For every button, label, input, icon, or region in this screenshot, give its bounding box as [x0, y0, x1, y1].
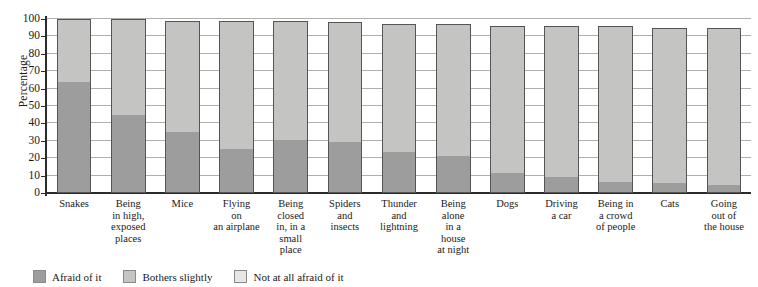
stacked-bar[interactable] — [436, 24, 471, 193]
x-axis-label-line: Being — [102, 198, 154, 210]
x-axis-label: Drivinga car — [534, 198, 588, 256]
y-tick-mark — [41, 54, 46, 55]
x-axis-label: Spidersandinsects — [318, 198, 372, 256]
bar-segment-afraid-of-it — [437, 156, 470, 192]
stacked-bar[interactable] — [111, 19, 146, 193]
legend-item[interactable]: Not at all afraid of it — [234, 270, 343, 283]
bar-slot — [480, 19, 534, 193]
x-axis-label-line: exposed — [102, 221, 154, 233]
x-axis-label-line: small — [265, 233, 317, 245]
bar-segment-afraid-of-it — [653, 183, 686, 192]
x-axis-label-line: the house — [698, 221, 750, 233]
bar-segment-afraid-of-it — [383, 152, 416, 192]
bar-slot — [534, 19, 588, 193]
x-axis-category-labels: SnakesBeingin high,exposedplacesMiceFlyi… — [47, 198, 751, 256]
x-axis-label-line: Being in — [590, 198, 642, 210]
x-axis-label-line: in, in a — [265, 221, 317, 233]
x-axis-label: Goingout ofthe house — [697, 198, 751, 256]
y-tick-label: 70 — [29, 65, 41, 77]
x-axis-label-line: Flying — [210, 198, 262, 210]
bar-group — [47, 19, 751, 193]
y-tick-label: 80 — [29, 48, 41, 60]
y-tick-mark — [41, 89, 46, 90]
x-axis-label-line: at night — [427, 244, 479, 256]
x-axis-label: Being ina crowdof people — [589, 198, 643, 256]
x-axis-label-line: and — [373, 210, 425, 222]
stacked-bar[interactable] — [707, 28, 742, 193]
x-axis-label-line: places — [102, 233, 154, 245]
x-axis-label: Dogs — [480, 198, 534, 256]
y-tick-label: 40 — [29, 118, 41, 130]
legend-label: Bothers slightly — [142, 271, 212, 283]
x-axis-label-line: in a — [427, 221, 479, 233]
legend-label: Not at all afraid of it — [253, 271, 343, 283]
bar-segment-afraid-of-it — [708, 185, 741, 192]
x-axis-label-line: insects — [319, 221, 371, 233]
y-tick-label: 90 — [29, 31, 41, 43]
bar-slot — [209, 19, 263, 193]
stacked-bar[interactable] — [57, 19, 92, 193]
bar-slot — [264, 19, 318, 193]
x-axis-label: Beingalonein ahouseat night — [426, 198, 480, 256]
y-tick-label: 100 — [23, 13, 40, 25]
x-axis-label: Snakes — [47, 198, 101, 256]
bar-slot — [372, 19, 426, 193]
bar-segment-bothers-slightly — [653, 29, 686, 192]
x-axis-label-line: on — [210, 210, 262, 222]
y-tick-mark — [41, 106, 46, 107]
bar-segment-afraid-of-it — [220, 149, 253, 192]
x-axis-label-line: Spiders — [319, 198, 371, 210]
x-axis-label-line: lightning — [373, 221, 425, 233]
stacked-bar[interactable] — [652, 28, 687, 193]
x-axis-label-line: Thunder — [373, 198, 425, 210]
stacked-bar[interactable] — [328, 22, 363, 193]
x-axis-label: Beingclosedin, in asmallplace — [264, 198, 318, 256]
chart-legend: Afraid of itBothers slightlyNot at all a… — [33, 270, 344, 283]
bar-segment-bothers-slightly — [491, 27, 524, 192]
x-axis-label-line: out of — [698, 210, 750, 222]
bar-slot — [589, 19, 643, 193]
bar-slot — [426, 19, 480, 193]
y-tick-label: 30 — [29, 135, 41, 147]
x-axis-label-line: Mice — [156, 198, 208, 210]
bar-segment-bothers-slightly — [599, 27, 632, 192]
x-axis-label-line: Being — [265, 198, 317, 210]
x-axis-label-line: Driving — [535, 198, 587, 210]
stacked-bar[interactable] — [598, 26, 633, 193]
bar-segment-afraid-of-it — [491, 173, 524, 192]
x-axis-label-line: Snakes — [48, 198, 100, 210]
x-axis-label-line: Dogs — [481, 198, 533, 210]
x-axis-label: Mice — [155, 198, 209, 256]
y-tick-mark — [41, 158, 46, 159]
bar-slot — [318, 19, 372, 193]
stacked-bar[interactable] — [382, 24, 417, 193]
x-axis-label-line: in high, — [102, 210, 154, 222]
x-axis-label-line: closed — [265, 210, 317, 222]
legend-swatch-icon — [123, 270, 136, 283]
stacked-bar[interactable] — [273, 21, 308, 193]
bar-segment-bothers-slightly — [545, 27, 578, 192]
bar-segment-afraid-of-it — [545, 177, 578, 192]
x-axis-label-line: a car — [535, 210, 587, 222]
y-tick-label: 50 — [29, 100, 41, 112]
bar-segment-afraid-of-it — [58, 82, 91, 192]
bar-slot — [697, 19, 751, 193]
x-axis-label-line: alone — [427, 210, 479, 222]
x-axis-label: Thunderandlightning — [372, 198, 426, 256]
legend-item[interactable]: Afraid of it — [33, 270, 101, 283]
bar-segment-afraid-of-it — [329, 142, 362, 192]
stacked-bar[interactable] — [165, 21, 200, 193]
bar-segment-afraid-of-it — [112, 115, 145, 192]
x-axis-label: Cats — [643, 198, 697, 256]
x-axis-label-line: an airplane — [210, 221, 262, 233]
stacked-bar[interactable] — [544, 26, 579, 193]
stacked-bar[interactable] — [219, 21, 254, 193]
x-axis-label-line: house — [427, 233, 479, 245]
x-axis-label: Flyingonan airplane — [209, 198, 263, 256]
stacked-bar[interactable] — [490, 26, 525, 193]
y-tick-mark — [41, 193, 46, 194]
y-tick-label: 10 — [29, 170, 41, 182]
x-axis-label-line: a crowd — [590, 210, 642, 222]
y-tick-mark — [41, 36, 46, 37]
legend-item[interactable]: Bothers slightly — [123, 270, 212, 283]
